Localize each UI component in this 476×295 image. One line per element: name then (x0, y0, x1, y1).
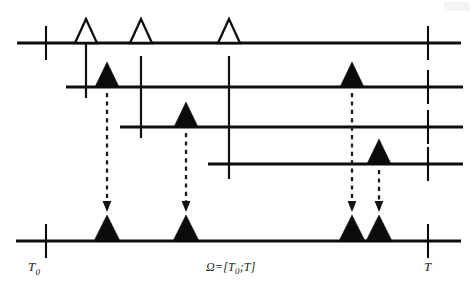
projection-arrows-group (103, 93, 384, 212)
label-end-time: T (424, 259, 431, 275)
filled-spike-row-3-0 (174, 102, 198, 127)
arrow-head-arrow-2 (182, 201, 191, 212)
arrow-head-arrow-1 (103, 201, 112, 212)
label-start-time: T0 (28, 259, 40, 277)
filled-spike-row-2-0 (95, 62, 119, 87)
timeline-axes-group (16, 26, 463, 258)
filled-spike-row-5-3 (366, 215, 392, 241)
label-interval-head: Ω=[T (206, 260, 235, 274)
figure-canvas: T0 Ω=[T0;T] T (0, 0, 476, 295)
filled-spike-row-5-0 (94, 215, 120, 241)
label-interval-omega: Ω=[T0;T] (206, 260, 256, 276)
hollow-spike-row-1-2 (218, 19, 240, 43)
timeline-diagram (0, 0, 476, 295)
label-end-time-base: T (424, 259, 431, 274)
label-start-time-subscript: 0 (35, 267, 40, 277)
filled-spike-row-4-0 (367, 139, 391, 164)
hollow-spike-row-1-1 (130, 19, 152, 43)
filled-spike-row-5-1 (173, 215, 199, 241)
arrow-head-arrow-3 (348, 201, 357, 212)
hollow-spike-row-1-0 (75, 19, 97, 43)
label-interval-tail: ;T] (240, 260, 256, 274)
arrow-head-arrow-4 (375, 201, 384, 212)
event-spikes-group (75, 19, 392, 241)
filled-spike-row-5-2 (339, 215, 365, 241)
filled-spike-row-2-1 (340, 62, 364, 87)
